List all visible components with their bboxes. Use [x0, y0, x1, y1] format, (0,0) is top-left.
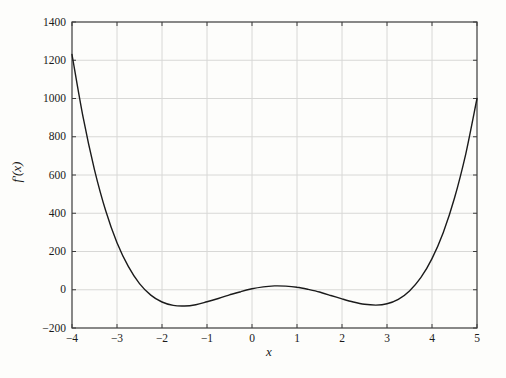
plot-canvas: −4−3−2−1012345−2000200400600800100012001…: [0, 0, 506, 378]
y-tick-label: 1400: [43, 16, 66, 28]
x-tick-label: 5: [474, 332, 480, 344]
x-tick-label: 0: [249, 332, 255, 344]
x-tick-label: −2: [156, 332, 168, 344]
x-tick-label: 3: [384, 332, 390, 344]
x-tick-label: 1: [294, 332, 300, 344]
y-tick-label: 1200: [43, 54, 66, 66]
x-tick-label: −3: [111, 332, 123, 344]
x-tick-label: −1: [201, 332, 213, 344]
figure: −4−3−2−1012345−2000200400600800100012001…: [0, 0, 506, 378]
x-tick-label: −4: [66, 332, 78, 344]
y-tick-label: 600: [49, 169, 67, 181]
y-tick-label: 400: [49, 207, 67, 219]
y-tick-label: 200: [49, 245, 67, 257]
curve-f-prime: [72, 55, 477, 307]
x-tick-label: 4: [429, 332, 435, 344]
x-tick-label: 2: [339, 332, 345, 344]
y-tick-label: 1000: [43, 92, 66, 104]
y-tick-label: 0: [60, 283, 66, 295]
y-tick-label: −200: [42, 322, 66, 334]
y-tick-label: 800: [49, 130, 67, 142]
